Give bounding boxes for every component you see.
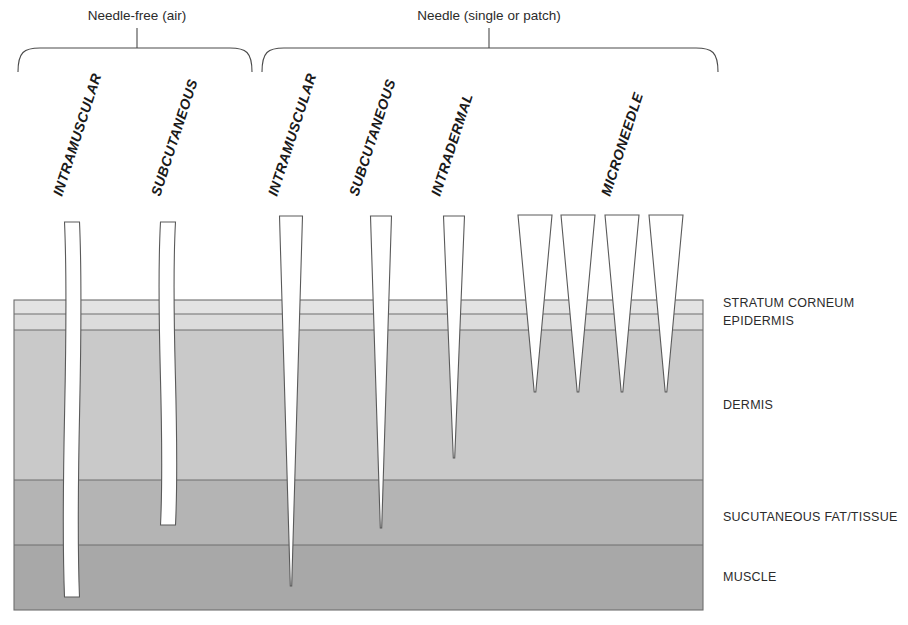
device-label-intramuscular-3: INTRAMUSCULAR bbox=[265, 71, 320, 198]
jet-stream-air-intramuscular bbox=[63, 222, 81, 597]
group-title-1: Needle-free (air) bbox=[88, 8, 186, 23]
brace-group-2 bbox=[262, 48, 718, 72]
skin-layer-dermis bbox=[14, 330, 703, 480]
skin-cross-section bbox=[14, 300, 703, 610]
layer-label-sucutaneous-fat-tissue: SUCUTANEOUS FAT/TISSUE bbox=[723, 510, 898, 524]
skin-layer-sucutaneous-fat-tissue bbox=[14, 480, 703, 545]
layer-label-epidermis: EPIDERMIS bbox=[723, 314, 794, 328]
device-label-microneedle-6: MICRONEEDLE bbox=[598, 90, 647, 198]
device-label-subcutaneous-2: SUBCUTANEOUS bbox=[148, 77, 201, 198]
layer-label-dermis: DERMIS bbox=[723, 398, 773, 412]
diagram-canvas: Needle-free (air)Needle (single or patch… bbox=[0, 0, 908, 625]
device-label-subcutaneous-4: SUBCUTANEOUS bbox=[346, 77, 399, 198]
layer-label-stratum-corneum: STRATUM CORNEUM bbox=[723, 296, 854, 310]
layer-labels: STRATUM CORNEUMEPIDERMISDERMISSUCUTANEOU… bbox=[723, 296, 898, 584]
group-title-2: Needle (single or patch) bbox=[417, 8, 560, 23]
device-label-intradermal-5: INTRADERMAL bbox=[428, 91, 476, 198]
layer-label-muscle: MUSCLE bbox=[723, 570, 777, 584]
device-labels: INTRAMUSCULARSUBCUTANEOUSINTRAMUSCULARSU… bbox=[50, 71, 647, 198]
injection-depth-diagram: Needle-free (air)Needle (single or patch… bbox=[0, 0, 908, 625]
skin-layer-stratum-corneum bbox=[14, 300, 703, 314]
group-braces: Needle-free (air)Needle (single or patch… bbox=[18, 8, 718, 72]
skin-layer-epidermis bbox=[14, 314, 703, 330]
device-label-intramuscular-1: INTRAMUSCULAR bbox=[50, 71, 105, 198]
jet-stream-air-subcutaneous bbox=[159, 222, 177, 525]
skin-layer-muscle bbox=[14, 545, 703, 610]
brace-group-1 bbox=[18, 48, 252, 72]
